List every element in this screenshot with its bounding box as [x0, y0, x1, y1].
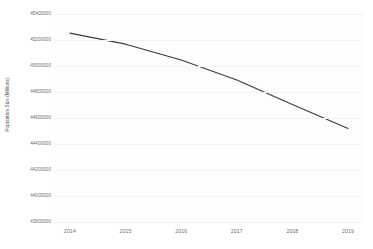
- plot-area: [55, 14, 363, 222]
- y-axis: Population Size (Millions) 4540000045200…: [0, 14, 55, 222]
- x-tick-label: 2019: [328, 228, 368, 234]
- gridline: [55, 118, 363, 119]
- gridline: [55, 170, 363, 171]
- x-axis: 201420152016201720182019: [55, 222, 363, 242]
- gridline: [55, 92, 363, 93]
- y-tick-label: 45200000: [3, 37, 51, 43]
- gridline: [55, 14, 363, 15]
- y-tick-label: 44400000: [3, 141, 51, 147]
- y-tick-label: 44000000: [3, 193, 51, 199]
- series-polyline: [70, 33, 348, 128]
- x-tick-label: 2018: [272, 228, 312, 234]
- y-tick-label: 45400000: [3, 11, 51, 17]
- y-tick-label: 44800000: [3, 89, 51, 95]
- y-tick-label: 44600000: [3, 115, 51, 121]
- y-axis-title: Population Size (Millions): [5, 67, 10, 143]
- gridline: [55, 196, 363, 197]
- gridline: [55, 40, 363, 41]
- x-tick-label: 2014: [50, 228, 90, 234]
- x-tick-label: 2016: [161, 228, 201, 234]
- x-tick-label: 2017: [217, 228, 257, 234]
- y-tick-label: 43800000: [3, 219, 51, 225]
- gridline: [55, 222, 363, 223]
- y-tick-label: 45000000: [3, 63, 51, 69]
- x-tick-label: 2015: [106, 228, 146, 234]
- chart-title: [0, 0, 373, 1]
- y-tick-label: 44200000: [3, 167, 51, 173]
- line-chart: Population Size (Millions) 4540000045200…: [0, 0, 373, 249]
- gridline: [55, 144, 363, 145]
- gridline: [55, 66, 363, 67]
